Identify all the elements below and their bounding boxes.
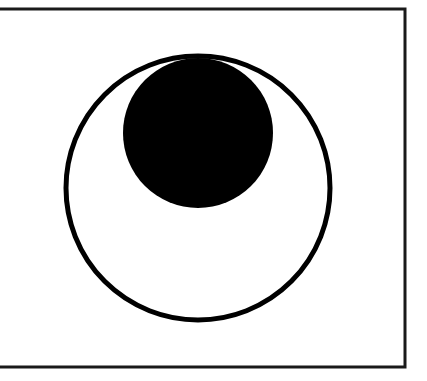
diagram-canvas: [0, 0, 427, 381]
inner-filled-disk: [123, 58, 273, 208]
